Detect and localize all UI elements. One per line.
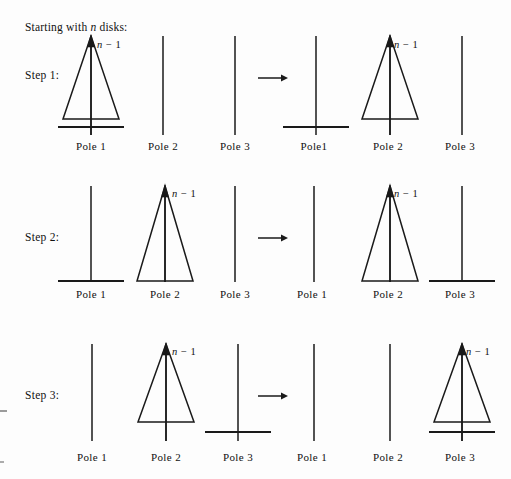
stack-label-r3-right: n − 1 (466, 347, 490, 358)
pole-label-r3-right-3: Pole 3 (445, 452, 475, 463)
pole-group-r2-left-2 (137, 185, 193, 282)
stack-label-count: 1 (412, 188, 418, 199)
pole-label-r1-right-2: Pole 2 (373, 141, 403, 152)
pole-label-r3-right-2: Pole 2 (373, 452, 403, 463)
figure-caption: Starting with n disks: (25, 22, 128, 34)
stack-label-count: 1 (190, 346, 196, 357)
pole-label-r2-right-2: Pole 2 (373, 289, 403, 300)
transition-arrow-r1 (258, 75, 288, 82)
stack-label-minus: − (178, 346, 191, 357)
transition-arrow-r3 (258, 393, 288, 400)
pole-label-r1-left-3: Pole 3 (220, 141, 250, 152)
caption-suffix: disks: (96, 21, 127, 33)
caption-prefix: Starting with (25, 21, 90, 33)
stack-label-r2-left: n − 1 (172, 189, 196, 200)
stack-label-r2-right: n − 1 (394, 189, 418, 200)
step-label-1: Step 1: (25, 70, 59, 82)
arrow-head-r3 (281, 393, 288, 400)
stack-label-r1-left: n − 1 (97, 40, 121, 51)
step-label-2: Step 2: (25, 232, 59, 244)
pole-label-r1-left-2: Pole 2 (148, 141, 178, 152)
pole-label-r2-left-3: Pole 3 (220, 289, 250, 300)
stack-label-minus: − (400, 39, 413, 50)
pole-group-r1-right-1 (283, 36, 349, 135)
page-edge-mark-upper (0, 410, 7, 412)
stack-label-minus: − (178, 188, 191, 199)
stack-label-count: 1 (115, 39, 121, 50)
arrow-head-r1 (281, 75, 288, 82)
pole-label-r1-left-1: Pole 1 (76, 141, 106, 152)
pole-label-r3-right-1: Pole 1 (297, 452, 327, 463)
stack-label-count: 1 (190, 188, 196, 199)
stack-label-count: 1 (484, 346, 490, 357)
pole-group-r2-left-1 (58, 186, 124, 282)
stack-label-r3-left: n − 1 (172, 347, 196, 358)
pole-label-r3-left-2: Pole 2 (151, 452, 181, 463)
pole-group-r2-right-3 (429, 186, 495, 282)
stack-label-r1-right: n − 1 (394, 40, 418, 51)
pole-label-r3-left-1: Pole 1 (77, 452, 107, 463)
pole-label-r1-right-3: Pole 3 (445, 141, 475, 152)
arrow-head-r2 (281, 235, 288, 242)
pole-label-r1-right-1: Pole1 (300, 141, 327, 152)
pole-label-r2-left-2: Pole 2 (150, 289, 180, 300)
stack-label-minus: − (103, 39, 116, 50)
page-edge-mark-lower (0, 461, 4, 463)
pole-group-r3-left-3 (205, 344, 271, 441)
stack-label-minus: − (400, 188, 413, 199)
tower-of-hanoi-figure: Starting with n disks: Step 1: Step 2: S… (0, 0, 511, 479)
pole-label-r2-right-3: Pole 3 (445, 289, 475, 300)
transition-arrow-r2 (258, 235, 288, 242)
pole-label-r2-right-1: Pole 1 (297, 289, 327, 300)
stack-label-count: 1 (412, 39, 418, 50)
pole-group-r3-left-2 (138, 343, 194, 441)
stack-label-minus: − (472, 346, 485, 357)
pole-group-r3-right-3 (429, 343, 495, 441)
pole-label-r3-left-3: Pole 3 (223, 452, 253, 463)
pole-group-r2-right-2 (362, 185, 418, 282)
step-label-3: Step 3: (25, 390, 59, 402)
pole-label-r2-left-1: Pole 1 (76, 289, 106, 300)
figure-drawing (0, 0, 511, 479)
